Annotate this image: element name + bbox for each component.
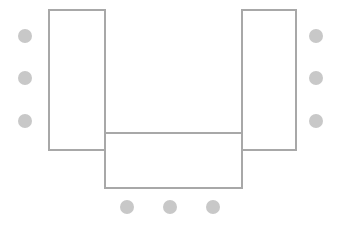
bottom-table[interactable] <box>105 133 242 188</box>
tables-group <box>49 10 296 188</box>
left-seats-group <box>18 29 32 128</box>
seat-bottom-2[interactable] <box>163 200 177 214</box>
seat-right-3[interactable] <box>309 114 323 128</box>
seat-left-3[interactable] <box>18 114 32 128</box>
seat-left-2[interactable] <box>18 71 32 85</box>
seat-bottom-3[interactable] <box>206 200 220 214</box>
diagram-canvas <box>0 0 337 227</box>
left-table[interactable] <box>49 10 105 150</box>
seat-right-1[interactable] <box>309 29 323 43</box>
seating-layout-diagram <box>0 0 337 227</box>
seat-right-2[interactable] <box>309 71 323 85</box>
right-seats-group <box>309 29 323 128</box>
bottom-seats-group <box>120 200 220 214</box>
right-table[interactable] <box>242 10 296 150</box>
seat-left-1[interactable] <box>18 29 32 43</box>
seat-bottom-1[interactable] <box>120 200 134 214</box>
